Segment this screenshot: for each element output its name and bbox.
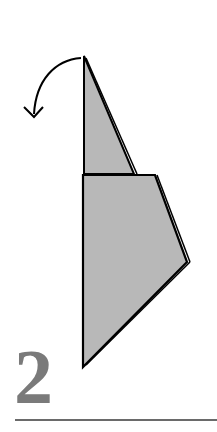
divider-line	[15, 419, 217, 421]
fold-arrow-icon	[24, 58, 81, 117]
step-number: 2	[14, 338, 53, 416]
upper-flap	[84, 56, 137, 174]
lower-body	[83, 175, 190, 367]
